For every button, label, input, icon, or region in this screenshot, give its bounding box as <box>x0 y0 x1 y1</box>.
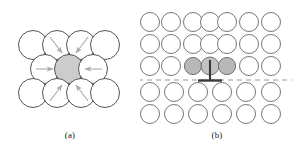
atom-circle <box>141 13 160 32</box>
atom-circle <box>165 83 184 102</box>
atom-circle <box>262 57 281 76</box>
atom-circle <box>162 57 181 76</box>
atom-circle <box>189 83 208 102</box>
lattice-row-2 <box>141 35 281 54</box>
atom-circle <box>262 83 281 102</box>
atom-circle <box>141 35 160 54</box>
lattice-row-1 <box>141 13 281 32</box>
figure-root: (a) <box>0 0 294 158</box>
atom-circle <box>162 35 181 54</box>
atom-circle <box>240 13 259 32</box>
atom-circle <box>141 57 160 76</box>
atom-circle <box>141 83 160 102</box>
atom-circle <box>189 105 208 124</box>
atom-circle <box>184 35 203 54</box>
atom-circle-highlighted <box>218 57 235 74</box>
atom-circle <box>237 83 256 102</box>
atom-circle <box>218 35 237 54</box>
atom-circle <box>165 105 184 124</box>
atom-circle <box>218 13 237 32</box>
atom-circle <box>240 57 259 76</box>
panel-a-diagram <box>0 0 140 128</box>
atom-circle <box>201 35 220 54</box>
panel-b-diagram <box>140 0 294 128</box>
atom-circle <box>91 79 120 108</box>
atom-circle <box>184 13 203 32</box>
atom-circle <box>201 13 220 32</box>
panel-a-caption: (a) <box>0 130 140 140</box>
lattice-row-5 <box>141 105 281 124</box>
lattice-row-4 <box>141 83 281 102</box>
atom-circle-highlighted <box>184 57 201 74</box>
atom-circle <box>141 105 160 124</box>
panel-b: (b) <box>140 0 294 158</box>
atom-circle <box>213 105 232 124</box>
atom-circle <box>237 105 256 124</box>
atom-circle <box>262 105 281 124</box>
panel-a: (a) <box>0 0 140 158</box>
atom-circle <box>262 13 281 32</box>
atom-circle <box>240 35 259 54</box>
panel-b-caption: (b) <box>140 130 294 140</box>
atom-circle <box>213 83 232 102</box>
atom-circle <box>162 13 181 32</box>
atom-circle <box>262 35 281 54</box>
